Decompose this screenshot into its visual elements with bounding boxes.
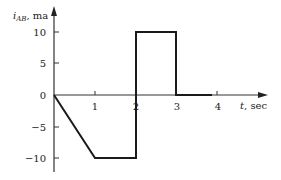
x-tick-label: 1 — [92, 101, 98, 112]
x-tick-label: 3 — [174, 101, 180, 112]
x-axis-label: t, sec — [240, 100, 267, 111]
y-tick-label: 10 — [33, 27, 46, 38]
y-tick-label: −10 — [25, 153, 46, 164]
chart: 10 5 0 −5 −10 1 2 3 4 iAB, ma t, sec — [0, 0, 281, 180]
y-tick-label: −5 — [31, 122, 46, 133]
y-axis-arrow-icon — [51, 6, 57, 16]
x-tick-label: 4 — [215, 101, 221, 112]
y-tick-label: 5 — [40, 58, 46, 69]
y-tick-label: 0 — [40, 90, 46, 101]
y-axis-label: iAB, ma — [13, 10, 48, 23]
x-axis-arrow-icon — [258, 92, 268, 98]
